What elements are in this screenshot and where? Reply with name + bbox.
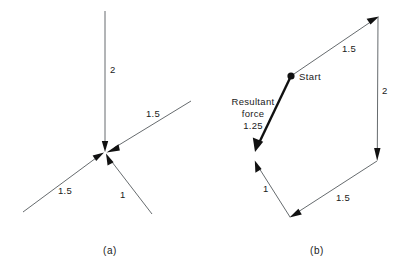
poly-vector-1p5-bottom-arrowhead: [290, 209, 302, 218]
label-resultant-force-word: force: [242, 108, 265, 119]
caption-panel-b: (b): [310, 245, 324, 256]
label-resultant-magnitude: 1.25: [243, 120, 263, 131]
force-vector-2-arrowhead: [102, 141, 108, 152]
start-point-dot: [287, 72, 294, 79]
force-vector-1-arrowhead: [106, 154, 114, 166]
force-vector-1p5-ur-arrowhead: [107, 144, 120, 152]
poly-vector-2-arrowhead: [374, 148, 380, 161]
force-vector-1-line: [112, 162, 152, 214]
label-poly-1p5-top: 1.5: [342, 43, 356, 54]
label-poly-1p5-bottom: 1.5: [336, 192, 350, 203]
label-poly-1-left: 1: [263, 183, 269, 194]
poly-vector-1p5-bottom-line: [298, 161, 377, 212]
label-resultant-word: Resultant: [232, 96, 275, 107]
panel-a-group: 2 1.5 1.5 1 (a): [23, 11, 191, 256]
label-force-1p5-upper-right: 1.5: [146, 108, 160, 119]
label-poly-2-right: 2: [382, 85, 388, 96]
figure-container: 2 1.5 1.5 1 (a): [0, 0, 403, 271]
label-force-1: 1: [120, 189, 126, 200]
label-start: Start: [299, 71, 321, 82]
poly-vector-2-line: [377, 17, 378, 152]
panel-b-group: Start Resultant force 1.25 1.5 2 1.5 1 (…: [232, 17, 388, 257]
caption-panel-a: (a): [103, 245, 117, 256]
poly-vector-1p5-top-line: [291, 21, 372, 76]
label-force-2: 2: [110, 64, 116, 75]
force-diagram-svg: 2 1.5 1.5 1 (a): [0, 0, 403, 271]
label-force-1p5-lower-left: 1.5: [58, 185, 72, 196]
